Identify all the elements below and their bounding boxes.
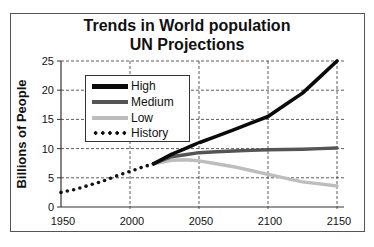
legend-swatch-history <box>92 131 128 135</box>
y-tick-label: 20 <box>42 84 54 96</box>
x-tick-label: 1950 <box>51 215 75 227</box>
legend-swatch-high <box>92 84 128 89</box>
y-tick-label: 0 <box>48 201 54 213</box>
history-point <box>72 188 76 192</box>
legend-swatch-medium <box>92 100 128 104</box>
history-point <box>152 162 156 166</box>
x-tick-label: 2000 <box>120 215 144 227</box>
history-point <box>121 172 125 176</box>
y-tick-label: 5 <box>48 172 54 184</box>
legend-swatch-low <box>92 116 128 120</box>
history-point <box>90 183 94 187</box>
history-point <box>66 189 70 193</box>
legend-label: History <box>131 126 168 140</box>
y-tick-label: 15 <box>42 113 54 125</box>
x-tick-label: 2150 <box>327 215 351 227</box>
history-point <box>97 181 101 185</box>
legend: High Medium Low History <box>85 75 190 142</box>
history-point <box>115 174 119 178</box>
legend-item-high: High <box>92 78 156 94</box>
history-point <box>133 168 137 172</box>
history-point <box>103 179 107 183</box>
x-tick-label: 2050 <box>189 215 213 227</box>
x-tick-label: 2100 <box>258 215 282 227</box>
legend-label: Medium <box>131 95 174 109</box>
history-point <box>139 166 143 170</box>
history-point <box>109 176 113 180</box>
legend-item-history: History <box>92 125 168 141</box>
y-tick-label: 10 <box>42 143 54 155</box>
legend-label: High <box>131 79 156 93</box>
history-point <box>59 191 63 195</box>
history-point <box>78 186 82 190</box>
legend-label: Low <box>131 111 153 125</box>
legend-item-medium: Medium <box>92 94 174 110</box>
legend-item-low: Low <box>92 110 153 126</box>
y-tick-label: 25 <box>42 55 54 67</box>
history-point <box>145 164 149 168</box>
history-point <box>127 170 131 174</box>
history-point <box>84 184 88 188</box>
